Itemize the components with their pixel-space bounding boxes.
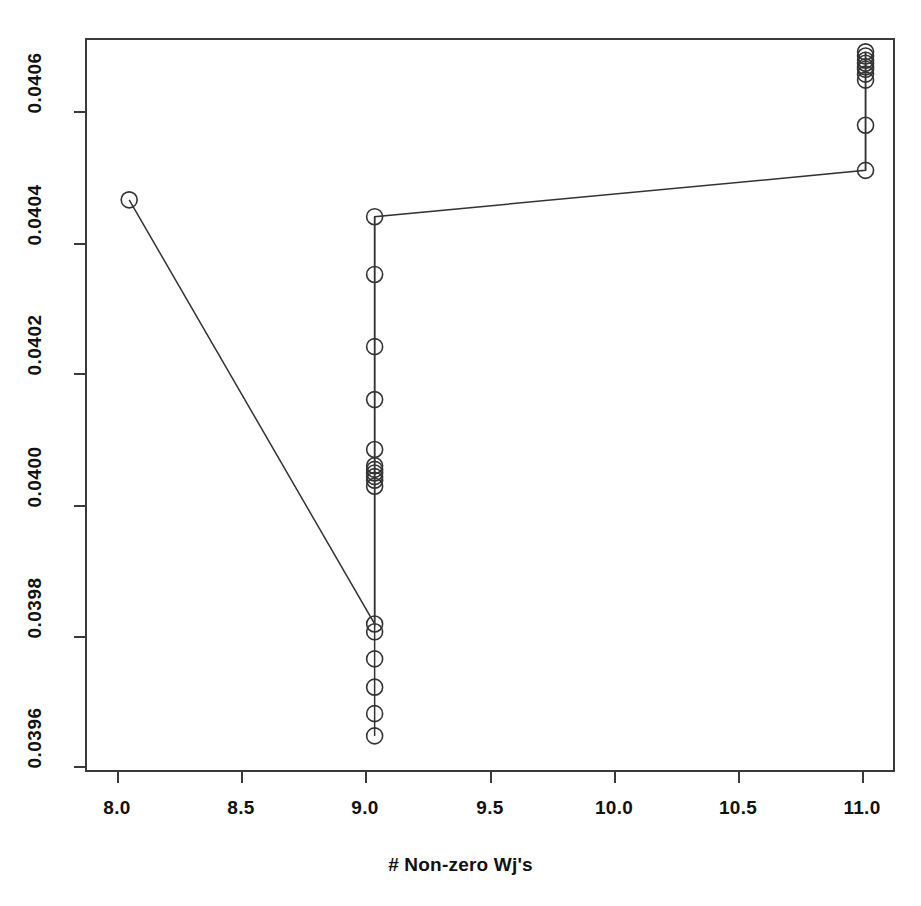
- x-axis-tick-label: 10.0: [564, 797, 664, 819]
- series-line: [129, 52, 865, 624]
- x-axis-tick-label: 8.0: [67, 797, 167, 819]
- y-tick-mark: [74, 111, 85, 113]
- y-tick-mark: [74, 636, 85, 638]
- y-axis-tick-label: 0.0398: [0, 597, 70, 619]
- y-axis-tick-label: 0.0406: [0, 72, 70, 94]
- y-axis-tick-label: 0.0402: [0, 334, 70, 356]
- y-axis-tick-label-text: 0.0404: [24, 180, 46, 250]
- y-tick-mark: [74, 505, 85, 507]
- chart-data-layer: [0, 0, 921, 906]
- x-tick-mark: [614, 772, 616, 783]
- y-axis-tick-label: 0.0404: [0, 204, 70, 226]
- x-tick-mark: [738, 772, 740, 783]
- chart-page: 0.0396 0.0398 0.0400 0.0402 0.0404 0.040…: [0, 0, 921, 906]
- x-tick-mark: [862, 772, 864, 783]
- x-tick-mark: [490, 772, 492, 783]
- y-axis-tick-label-text: 0.0396: [24, 703, 46, 773]
- y-axis-tick-label-text: 0.0400: [24, 442, 46, 512]
- y-axis-tick-label: 0.0396: [0, 727, 70, 749]
- scatter-series: [121, 44, 873, 744]
- x-axis-title: # Non-zero Wj's: [0, 854, 921, 876]
- y-tick-mark: [74, 243, 85, 245]
- x-axis-tick-label: 9.5: [440, 797, 540, 819]
- y-axis-tick-label-text: 0.0402: [24, 310, 46, 380]
- y-tick-mark: [74, 373, 85, 375]
- x-axis-tick-label: 8.5: [191, 797, 291, 819]
- y-tick-mark: [74, 766, 85, 768]
- y-axis-tick-label-text: 0.0398: [24, 573, 46, 643]
- x-axis-tick-label: 9.0: [315, 797, 415, 819]
- x-tick-mark: [365, 772, 367, 783]
- y-axis-tick-label-text: 0.0406: [24, 48, 46, 118]
- y-axis-tick-label: 0.0400: [0, 466, 70, 488]
- x-axis-tick-label: 10.5: [688, 797, 788, 819]
- x-axis-tick-label: 11.0: [812, 797, 912, 819]
- x-tick-mark: [241, 772, 243, 783]
- x-tick-mark: [117, 772, 119, 783]
